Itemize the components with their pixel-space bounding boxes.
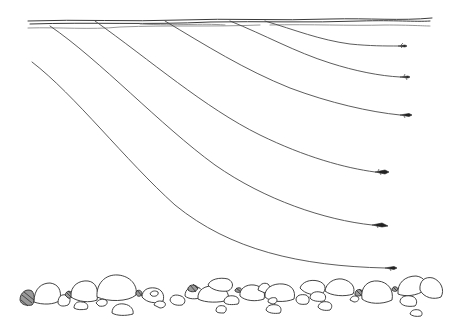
rock [420, 278, 443, 299]
rock [268, 298, 277, 304]
rock [71, 281, 98, 302]
rock [350, 296, 359, 302]
rock [400, 296, 417, 307]
rock [74, 302, 88, 310]
rock [34, 283, 61, 304]
rock-dark [136, 290, 142, 296]
fly-icon [372, 223, 388, 228]
rock [96, 299, 107, 306]
fly-icon [400, 74, 410, 80]
line-2 [230, 21, 410, 80]
fly-icon [398, 43, 407, 48]
rock [318, 302, 332, 311]
line-3 [165, 21, 412, 118]
line-5 [50, 26, 388, 228]
rock [310, 292, 326, 302]
rock [112, 304, 133, 316]
rock-dark [392, 287, 398, 292]
rock [410, 310, 422, 317]
rock [325, 279, 354, 296]
rock [216, 306, 226, 313]
fly-lines [32, 21, 412, 271]
rock [170, 295, 185, 305]
line-6 [32, 62, 397, 271]
rock [266, 305, 281, 314]
rock [224, 296, 239, 305]
rock [150, 291, 158, 296]
line-4 [95, 21, 389, 175]
rock-dark [188, 284, 198, 292]
rock [97, 275, 136, 301]
rock-dark [20, 290, 34, 306]
rock [296, 295, 309, 305]
water-surface [28, 18, 432, 28]
rock [154, 301, 165, 308]
rock [362, 281, 393, 303]
fly-icon [375, 169, 389, 175]
fly-line-illustration: Fly line sink depths through water colum… [0, 0, 467, 332]
riverbed-rocks [20, 275, 443, 316]
fly-icon [385, 267, 397, 272]
fly-icon [400, 114, 412, 119]
